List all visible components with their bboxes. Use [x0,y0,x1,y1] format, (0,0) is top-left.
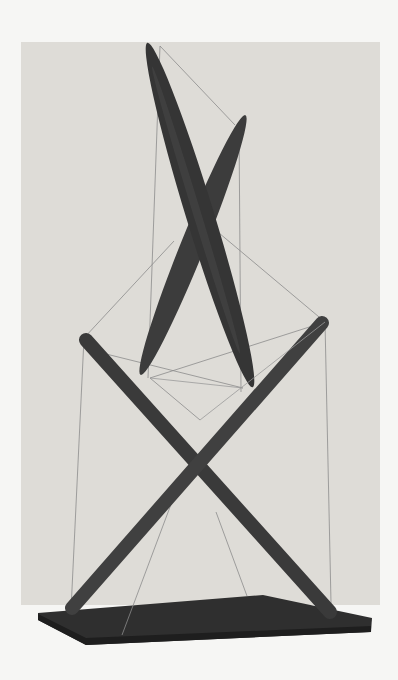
tension-wires [71,46,331,635]
tensegrity-sculpture [0,0,398,680]
lower-strut-a [86,340,330,612]
